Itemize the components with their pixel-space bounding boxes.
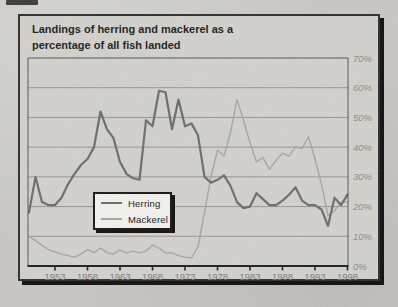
scan-artifact-mark	[6, 0, 38, 5]
legend-item-mackerel: Mackerel	[101, 214, 170, 225]
herring-line-swatch	[101, 202, 122, 204]
chart-title-line2: percentage of all fish landed	[32, 38, 233, 54]
chart-title: Landings of herring and mackerel as a pe…	[32, 22, 233, 54]
legend-item-herring: Herring	[101, 198, 170, 209]
mackerel-line-swatch	[101, 218, 122, 219]
figure-card: Landings of herring and mackerel as a pe…	[18, 14, 380, 281]
scanned-page: Landings of herring and mackerel as a pe…	[0, 0, 398, 307]
chart-title-line1: Landings of herring and mackerel as a	[32, 22, 233, 38]
legend-label-mackerel: Mackerel	[128, 214, 168, 225]
legend-label-herring: Herring	[128, 198, 161, 209]
chart-legend: Herring Mackerel	[93, 192, 172, 230]
